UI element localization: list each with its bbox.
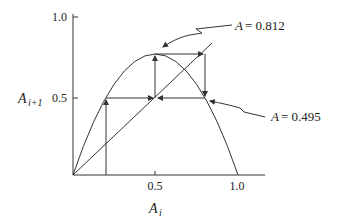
y-tick-label-05: 0.5 [52, 91, 67, 105]
cobweb-path [106, 54, 205, 175]
cobweb-diagram: 1.0 0.5 0.5 1.0 A i+1 A i A = 0.812 A = … [0, 0, 337, 221]
annotation-0495: A = 0.495 [270, 109, 321, 124]
y-tick-label-1: 1.0 [52, 10, 67, 24]
svg-text:A: A [270, 109, 279, 124]
y-axis-label: A i+1 [17, 91, 43, 108]
svg-text:= 0.812: = 0.812 [245, 18, 285, 33]
x-axis-label: A i [148, 201, 162, 218]
axes [73, 14, 265, 175]
annotation-arrow-0495 [210, 101, 265, 117]
svg-text:A: A [17, 91, 27, 106]
x-tick-label-05: 0.5 [148, 179, 163, 193]
x-tick-label-1: 1.0 [230, 179, 245, 193]
identity-diagonal [73, 43, 212, 175]
svg-text:= 0.495: = 0.495 [281, 109, 321, 124]
svg-text:A: A [148, 201, 158, 216]
svg-text:A: A [234, 18, 243, 33]
svg-text:i+1: i+1 [28, 97, 43, 108]
annotation-arrow-0812 [163, 25, 232, 47]
annotation-0812: A = 0.812 [234, 18, 285, 33]
svg-text:i: i [159, 207, 162, 218]
